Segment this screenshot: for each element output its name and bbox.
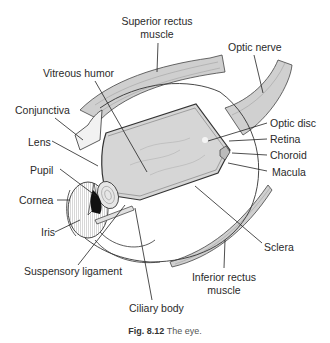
label-sclera: Sclera (264, 241, 294, 253)
label-pupil: Pupil (30, 164, 53, 176)
label-inferior-rectus-2: muscle (207, 284, 240, 296)
label-iris: Iris (41, 226, 55, 238)
caption-number: Fig. 8.12 (128, 326, 164, 336)
label-lens: Lens (28, 136, 51, 148)
label-ciliary-body: Ciliary body (129, 302, 184, 314)
label-superior-rectus: Superior rectus (121, 15, 192, 27)
label-superior-rectus-2: muscle (140, 28, 173, 40)
vitreous-chamber (102, 104, 230, 200)
label-choroid: Choroid (270, 149, 307, 161)
label-suspensory-ligament: Suspensory ligament (24, 265, 122, 277)
caption-text: The eye. (167, 326, 202, 336)
inferior-rectus-muscle (170, 185, 272, 267)
optic-disc (202, 137, 208, 143)
label-vitreous-humor: Vitreous humor (43, 67, 114, 79)
label-optic-disc: Optic disc (270, 117, 316, 129)
label-inferior-rectus: Inferior rectus (192, 271, 256, 283)
eye-diagram: Superior rectus muscle Optic nerve Vitre… (0, 0, 330, 343)
figure-caption: Fig. 8.12 The eye. (0, 326, 330, 336)
label-optic-nerve: Optic nerve (228, 41, 282, 53)
label-conjunctiva: Conjunctiva (15, 104, 70, 116)
label-retina: Retina (270, 133, 300, 145)
label-cornea: Cornea (19, 194, 53, 206)
label-macula: Macula (272, 166, 306, 178)
conjunctiva (75, 110, 102, 150)
